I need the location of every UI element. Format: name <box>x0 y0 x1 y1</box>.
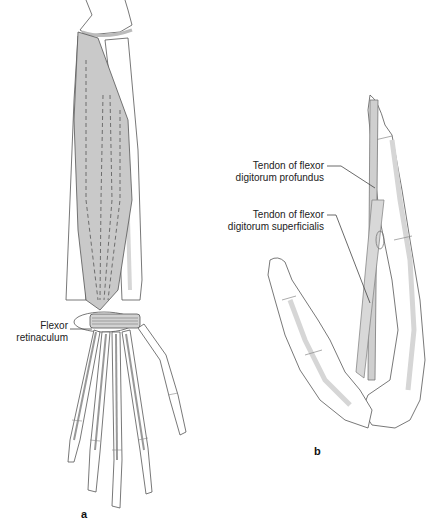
label-line: Tendon of flexor <box>200 209 324 221</box>
leader-profundus <box>327 166 375 188</box>
label-line: Tendon of flexor <box>200 160 324 172</box>
panel-b-finger <box>268 95 425 428</box>
panel-letter-b: b <box>314 445 321 457</box>
label-line: Flexor <box>0 320 68 332</box>
label-line: digitorum superficialis <box>200 221 324 233</box>
anatomy-figure <box>0 0 443 524</box>
label-flexor-retinaculum: Flexor retinaculum <box>0 320 68 344</box>
label-tendon-profundus: Tendon of flexor digitorum profundus <box>200 160 324 184</box>
label-line: digitorum profundus <box>200 172 324 184</box>
label-tendon-superficialis: Tendon of flexor digitorum superficialis <box>200 209 324 233</box>
label-line: retinaculum <box>0 332 68 344</box>
panel-letter-a: a <box>81 508 87 520</box>
panel-a-forearm <box>66 0 186 508</box>
